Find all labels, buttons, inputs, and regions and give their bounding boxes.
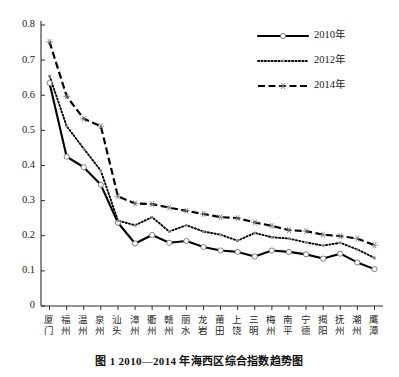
data-point-marker (217, 214, 224, 220)
data-point-marker (305, 241, 308, 244)
svg-text:梅: 梅 (266, 314, 276, 325)
svg-text:阳: 阳 (318, 325, 328, 336)
legend-label: 2014年 (314, 78, 345, 90)
legend-marker (280, 33, 285, 38)
svg-text:龙: 龙 (198, 314, 208, 325)
svg-text:州: 州 (352, 325, 362, 336)
data-point-marker (149, 201, 156, 207)
svg-text:三: 三 (249, 314, 259, 325)
svg-text:福: 福 (61, 314, 71, 325)
svg-text:莆: 莆 (215, 314, 225, 325)
figure-caption: 图 1 2010—2014 年海西区综合指数趋势图 (0, 352, 399, 368)
data-point-marker (184, 238, 189, 243)
svg-text:州: 州 (335, 325, 345, 336)
data-point-marker (218, 248, 223, 253)
svg-text:漳: 漳 (130, 314, 140, 325)
svg-text:温: 温 (78, 314, 88, 325)
data-point-marker (99, 169, 102, 172)
svg-text:厦: 厦 (44, 314, 54, 325)
y-tick-label: 0.2 (22, 229, 35, 240)
x-tick-label: 上饶 (232, 314, 242, 336)
y-axis: 00.10.20.30.40.50.60.70.8 (22, 18, 45, 310)
svg-text:赣: 赣 (164, 314, 174, 325)
svg-text:抚: 抚 (335, 314, 345, 325)
data-point-marker (337, 233, 344, 239)
x-tick-label: 福州 (61, 314, 71, 336)
data-point-marker (185, 224, 188, 227)
legend-item-2012年[interactable]: 2012年 (258, 53, 345, 65)
data-point-marker (132, 241, 137, 246)
data-point-marker (355, 260, 360, 265)
x-tick-label: 三明 (249, 314, 259, 336)
data-point-marker (150, 232, 155, 237)
data-point-marker (116, 219, 119, 222)
x-tick-label: 揭阳 (318, 314, 328, 336)
data-point-marker (219, 233, 222, 236)
x-tick-label: 泉州 (95, 314, 105, 336)
data-point-marker (287, 237, 290, 240)
data-point-marker (98, 182, 103, 187)
data-point-marker (339, 241, 342, 244)
svg-text:潭: 潭 (369, 325, 379, 336)
svg-text:明: 明 (249, 325, 259, 336)
series-line-2012年 (50, 76, 375, 258)
chart-legend[interactable]: 2010年2012年2014年 (258, 28, 345, 90)
data-point-marker (47, 80, 52, 85)
y-tick-label: 0.8 (22, 18, 35, 29)
legend-item-2014年[interactable]: 2014年 (258, 78, 345, 90)
svg-text:州: 州 (130, 325, 140, 336)
data-point-marker (251, 219, 258, 225)
data-point-marker (202, 230, 205, 233)
data-point-marker (322, 244, 325, 247)
data-point-marker (253, 231, 256, 234)
data-point-marker (373, 256, 376, 259)
data-point-marker (168, 230, 171, 233)
data-point-marker (303, 228, 310, 234)
data-point-marker (200, 211, 207, 217)
x-tick-label: 厦门 (44, 314, 54, 336)
data-point-marker (252, 254, 257, 259)
legend-item-2010年[interactable]: 2010年 (258, 28, 345, 40)
x-tick-label: 莆田 (215, 314, 225, 336)
series-line-2010年 (50, 83, 375, 269)
data-point-marker (82, 147, 85, 150)
svg-text:德: 德 (301, 325, 311, 336)
svg-text:丽: 丽 (181, 314, 191, 325)
x-tick-label: 衢州 (147, 314, 157, 336)
data-point-marker (134, 224, 137, 227)
data-point-marker (167, 240, 172, 245)
legend-marker (280, 83, 287, 89)
svg-text:州: 州 (266, 325, 276, 336)
series-line-2014年 (50, 42, 375, 245)
data-point-marker (236, 239, 239, 242)
x-tick-label: 南平 (283, 314, 293, 336)
x-tick-label: 潮州 (352, 314, 362, 336)
data-point-marker (320, 232, 327, 238)
y-tick-label: 0.1 (22, 264, 35, 275)
legend-marker (282, 60, 285, 63)
svg-text:州: 州 (78, 325, 88, 336)
data-point-marker (234, 215, 241, 221)
data-point-marker (183, 208, 190, 214)
x-tick-label: 鹰潭 (369, 314, 379, 336)
legend-label: 2010年 (314, 28, 345, 40)
x-tick-label: 龙岩 (198, 314, 208, 336)
data-point-marker (303, 252, 308, 257)
svg-text:头: 头 (112, 325, 122, 336)
data-point-marker (372, 267, 377, 272)
data-point-marker (166, 205, 173, 211)
svg-text:州: 州 (61, 325, 71, 336)
svg-text:水: 水 (181, 325, 191, 336)
y-tick-label: 0.7 (22, 54, 35, 65)
data-point-marker (201, 244, 206, 249)
svg-text:州: 州 (147, 325, 157, 336)
data-point-marker (64, 154, 69, 159)
y-tick-label: 0 (30, 299, 35, 310)
data-point-marker (268, 223, 275, 229)
x-tick-label: 宁德 (301, 314, 311, 336)
x-tick-label: 丽水 (181, 314, 191, 336)
svg-text:州: 州 (95, 325, 105, 336)
data-point-marker (338, 251, 343, 256)
data-point-marker (65, 125, 68, 128)
svg-text:州: 州 (164, 325, 174, 336)
